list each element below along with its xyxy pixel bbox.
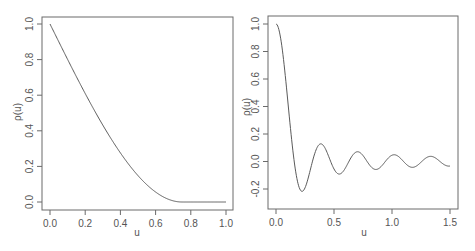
right-x-tick-label: 1.5: [443, 217, 457, 228]
right-y-tick-label: 0.0: [250, 154, 261, 168]
left-x-tick-label: 1.0: [219, 218, 233, 229]
left-y-tick-label: 0.2: [24, 159, 35, 173]
left-x-tick-label: 0.0: [43, 218, 57, 229]
right-x-axis: 0.00.51.01.5: [269, 209, 457, 228]
right-x-tick-label: 0.5: [327, 217, 341, 228]
left-y-tick-label: 0.8: [24, 52, 35, 66]
left-x-tick-label: 0.2: [78, 218, 92, 229]
left-series-line: [50, 24, 226, 202]
left-x-tick-label: 0.4: [113, 218, 127, 229]
left-y-axis-label: ρ(u): [12, 103, 23, 121]
right-y-tick-label: 0.8: [250, 44, 261, 58]
left-x-tick-label: 0.6: [149, 218, 163, 229]
left-y-tick-label: 1.0: [24, 17, 35, 31]
right-y-tick-label: 0.2: [250, 127, 261, 141]
right-y-tick-label: 0.6: [250, 72, 261, 86]
right-series-line: [276, 24, 450, 191]
right-x-tick-label: 1.0: [385, 217, 399, 228]
right-y-tick-label: 1.0: [250, 17, 261, 31]
left-x-axis-label: u: [134, 227, 140, 238]
right-panel: 0.00.51.01.5 -0.20.00.20.40.60.81.0 u ρ(…: [241, 16, 458, 238]
right-y-tick-label: -0.2: [250, 180, 261, 198]
chart-figure: 0.00.20.40.60.81.0 0.00.20.40.60.81.0 u …: [0, 0, 475, 251]
left-panel: 0.00.20.40.60.81.0 0.00.20.40.60.81.0 u …: [12, 17, 233, 238]
right-y-axis: -0.20.00.20.40.60.81.0: [250, 17, 268, 198]
left-plot-frame: [42, 17, 233, 210]
left-y-tick-label: 0.6: [24, 88, 35, 102]
left-x-tick-label: 0.8: [184, 218, 198, 229]
right-x-tick-label: 0.0: [269, 217, 283, 228]
left-y-axis: 0.00.20.40.60.81.0: [24, 17, 42, 209]
right-y-axis-label: ρ(u): [241, 98, 252, 116]
right-x-axis-label: u: [361, 227, 367, 238]
left-y-tick-label: 0.0: [24, 195, 35, 209]
right-plot-frame: [268, 16, 458, 209]
left-y-tick-label: 0.4: [24, 123, 35, 137]
